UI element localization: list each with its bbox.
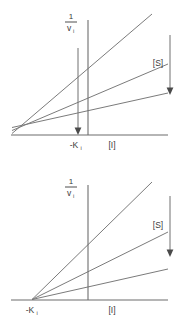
bottom-plot-substrate-arrow — [167, 196, 174, 257]
top-plot-substrate-label: [S] — [153, 58, 163, 68]
bottom-plot-substrate-label: [S] — [153, 220, 163, 230]
top-plot-y-label-denominator-subscript: i — [73, 28, 74, 34]
bottom-plot-y-label-numerator: 1 — [69, 177, 74, 186]
top-plot-line-low-s — [12, 14, 152, 134]
top-plot-y-label-denominator: v — [67, 23, 72, 33]
bottom-plot: 1 v i -K i [I] [S] — [11, 177, 173, 316]
top-plot-ki-arrow — [75, 48, 82, 135]
dixon-plot-figure: 1 v i -K i [I] [S] — [0, 0, 184, 321]
bottom-plot-ki-label-subscript: i — [36, 310, 37, 316]
bottom-plot-ki-label: -K i — [26, 305, 38, 316]
bottom-plot-y-label-denominator-subscript: i — [73, 193, 74, 199]
bottom-plot-ki-label-text: -K — [26, 305, 35, 315]
bottom-plot-x-axis-label: [I] — [108, 305, 115, 315]
top-plot-ki-label-subscript: i — [80, 145, 81, 151]
bottom-plot-y-label-denominator: v — [67, 188, 72, 198]
top-plot-substrate-arrow — [167, 35, 174, 95]
top-plot: 1 v i -K i [I] [S] — [11, 12, 173, 151]
bottom-plot-y-axis-label: 1 v i — [65, 177, 77, 199]
top-plot-y-axis-label: 1 v i — [65, 12, 77, 34]
bottom-plot-line-high-s — [32, 269, 168, 300]
figure-canvas: 1 v i -K i [I] [S] — [0, 0, 184, 321]
bottom-plot-line-mid-s — [32, 232, 168, 300]
top-plot-ki-label-text: -K — [70, 140, 79, 150]
top-plot-y-label-numerator: 1 — [69, 12, 74, 21]
top-plot-ki-label: -K i — [70, 140, 82, 151]
bottom-plot-line-low-s — [32, 182, 152, 300]
top-plot-line-mid-s — [12, 64, 168, 131]
top-plot-line-high-s — [12, 93, 168, 128]
top-plot-x-axis-label: [I] — [108, 140, 115, 150]
